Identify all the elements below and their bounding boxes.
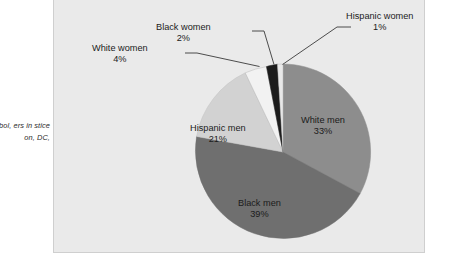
label-hispanic-women: Hispanic women 1% [346,11,413,34]
label-hispanic-men: Hispanic men 21% [190,123,246,146]
label-black-women-name: Black women [156,22,211,33]
label-white-men-name: White men [301,115,345,126]
label-hispanic-women-value: 1% [346,22,413,33]
pie-slices [195,64,370,238]
leader-line-hispanic-women [283,27,352,65]
label-black-men: Black men 39% [238,198,281,221]
source-note: 009, e). Sabol, ers in stice on, DC, [0,120,50,143]
leader-line-black-women [252,31,274,65]
label-white-men-value: 33% [301,126,345,137]
label-black-women-value: 2% [156,33,211,44]
label-hispanic-women-name: Hispanic women [346,11,413,22]
label-white-women-value: 4% [92,54,148,65]
label-white-men: White men 33% [301,115,345,138]
label-black-women: Black women 2% [156,22,211,45]
label-hispanic-men-value: 21% [190,134,246,145]
source-note-line-6: stice [34,121,50,130]
label-white-women: White women 4% [92,43,148,66]
leader-line-white-women [185,53,260,67]
source-note-line-7: on, DC, [24,133,50,142]
label-hispanic-men-name: Hispanic men [190,123,246,134]
label-black-men-name: Black men [238,198,281,209]
source-note-line-4: Sabol, [0,121,11,130]
source-note-line-5: ers in [13,121,32,130]
figure-page: 009, e). Sabol, ers in stice on, DC, [0,0,449,263]
label-black-men-value: 39% [238,209,281,220]
label-white-women-name: White women [92,43,148,54]
